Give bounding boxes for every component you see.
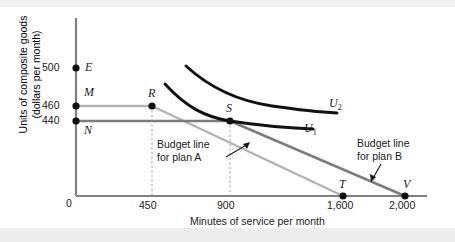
point-marker-s <box>226 117 233 124</box>
point-marker-m <box>72 102 79 109</box>
y-axis-title-line2: (dollars per month) <box>29 10 42 140</box>
point-marker-r <box>148 102 155 109</box>
x-tick-900: 900 <box>217 199 235 211</box>
y-axis-title-line1: Units of composite goods <box>17 10 30 140</box>
annotation-plan-b-line2: for plan B <box>357 150 410 163</box>
point-label-s: S <box>226 101 232 116</box>
x-axis-title: Minutes of service per month <box>190 215 325 227</box>
curve-label-u1-sub: 1 <box>313 128 317 137</box>
curve-label-u2: U2 <box>329 96 342 112</box>
point-marker-e <box>72 64 79 71</box>
point-marker-n <box>72 117 79 124</box>
figure-container: Units of composite goods (dollars per mo… <box>0 0 455 242</box>
curve-label-u2-sub: 2 <box>338 103 342 112</box>
x-tick-1600: 1,600 <box>327 199 353 211</box>
curve-label-u1: U1 <box>304 121 317 137</box>
point-label-e: E <box>85 60 92 75</box>
x-tick-origin: 0 <box>66 197 72 209</box>
indifference-curve-u2 <box>186 66 337 113</box>
budget-line-plan-b <box>76 121 405 196</box>
x-tick-2000: 2,000 <box>389 199 415 211</box>
y-tick-500: 500 <box>42 61 60 73</box>
annotation-plan-b-line1: Budget line <box>357 137 410 150</box>
y-axis-title: Units of composite goods (dollars per mo… <box>17 10 42 140</box>
arrow-plan-a-head <box>243 142 250 149</box>
annotation-plan-b: Budget line for plan B <box>357 137 410 162</box>
point-label-n: N <box>84 123 92 138</box>
y-tick-460: 460 <box>42 99 60 111</box>
x-tick-450: 450 <box>139 199 157 211</box>
point-label-m: M <box>84 85 94 100</box>
y-tick-440: 440 <box>42 114 60 126</box>
point-label-t: T <box>339 177 346 192</box>
annotation-plan-a-line1: Budget line <box>157 138 210 151</box>
annotation-plan-a-line2: for plan A <box>157 151 210 164</box>
point-label-v: V <box>403 177 410 192</box>
curve-label-u2-text: U <box>329 96 338 110</box>
point-label-r: R <box>148 86 155 101</box>
annotation-plan-a: Budget line for plan A <box>157 138 210 163</box>
curve-label-u1-text: U <box>304 121 313 135</box>
